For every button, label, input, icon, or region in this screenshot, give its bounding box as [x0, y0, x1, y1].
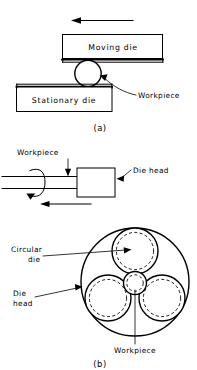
circular-die-label-line1: Circular [11, 245, 43, 254]
die-head-block [77, 168, 115, 197]
circular-die-label-line2: die [28, 255, 40, 264]
panel-a-motion-arrow-icon [71, 17, 133, 24]
panel-a-workpiece-label: Workpiece [138, 91, 180, 100]
panel-b-side-die-head-label: Die head [133, 166, 169, 175]
caption-a: (a) [93, 123, 106, 133]
panel-b-side-workpiece-label: Workpiece [17, 148, 59, 157]
panel-b-side-workpiece-leader [65, 159, 71, 177]
panel-b-front-group: Circular die Die head Workpiece (b) [11, 228, 189, 369]
thread-rolling-figure: Moving die Stationary die Workpiece (a) [0, 0, 197, 370]
panel-b-front-die-head-leader [35, 284, 83, 297]
stationary-die-label: Stationary die [32, 96, 97, 105]
panel-a-group: Moving die Stationary die Workpiece (a) [17, 17, 180, 133]
panel-b-side-feed-arrow-icon [40, 201, 91, 207]
panel-b-front-die-head-label-line2: head [13, 299, 33, 308]
circular-die-top [112, 228, 158, 274]
panel-b-side-group: Workpiece Die head [2, 148, 169, 207]
figure-canvas: Moving die Stationary die Workpiece (a) [0, 0, 197, 370]
panel-a-workpiece-circle [75, 60, 101, 86]
panel-b-front-die-head-label-line1: Die [13, 289, 26, 298]
moving-die-label: Moving die [88, 43, 138, 52]
panel-b-front-workpiece-label: Workpiece [114, 346, 156, 355]
caption-b: (b) [93, 359, 106, 369]
rotation-arrow-icon [27, 169, 46, 200]
panel-b-side-die-head-leader [117, 170, 132, 182]
